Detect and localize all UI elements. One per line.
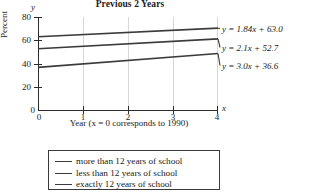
legend: more than 12 years of school less than 1…: [48, 150, 220, 190]
legend-swatch-icon-2: [55, 184, 72, 185]
chart-title: Previous 2 Years: [70, 0, 190, 10]
y-axis-variable-label: y: [31, 2, 35, 12]
y-tick-label-0: 0: [31, 105, 36, 115]
y-tick-label-60: 60: [22, 35, 31, 45]
y-tick-label-20: 20: [22, 82, 31, 92]
gridline-x-4: [217, 17, 218, 110]
x-axis-caption: Year (x = 0 corresponds to 1990): [24, 118, 234, 128]
y-tick-label-40: 40: [22, 59, 31, 69]
x-axis-variable-label: x: [222, 103, 226, 113]
y-tick-20: 20: [34, 87, 42, 88]
legend-swatch-icon-0: [55, 161, 72, 162]
chart-figure: Previous 2 Years y x Percent 80 60 40 20…: [0, 0, 311, 192]
leader-line-1: [218, 39, 220, 48]
y-axis-title: Percent: [0, 11, 9, 38]
legend-label-0: more than 12 years of school: [76, 156, 182, 166]
legend-label-1: less than 12 years of school: [76, 168, 177, 178]
legend-item-0: more than 12 years of school: [55, 155, 182, 167]
y-tick-80: 80: [34, 17, 42, 18]
gridline-x-2: [128, 17, 129, 110]
y-tick-40: 40: [34, 64, 42, 65]
equation-annotation-2: y = 3.0x + 36.6: [222, 61, 278, 71]
legend-item-2: exactly 12 years of school: [55, 178, 172, 190]
leader-line-2: [218, 54, 220, 66]
equation-annotation-1: y = 2.1x + 52.7: [222, 43, 278, 53]
plot-area: 80 60 40 20 0 0 1 2 3 4: [38, 17, 218, 111]
legend-swatch-icon-1: [55, 173, 72, 174]
gridline-x-3: [173, 17, 174, 110]
legend-label-2: exactly 12 years of school: [76, 179, 172, 189]
equation-annotation-0: y = 1.84x + 63.0: [222, 24, 283, 34]
y-tick-label-80: 80: [22, 12, 31, 22]
gridline-x-1: [83, 17, 84, 110]
y-tick-60: 60: [34, 40, 42, 41]
